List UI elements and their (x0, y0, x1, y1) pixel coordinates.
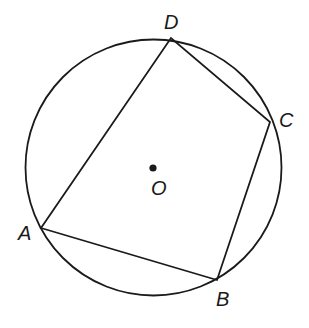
label-d: D (164, 11, 178, 33)
center-point-o (149, 164, 156, 171)
label-o: O (151, 177, 167, 199)
quadrilateral-abcd (41, 38, 270, 280)
label-c: C (279, 109, 294, 131)
label-b: B (216, 288, 229, 310)
label-a: A (17, 222, 31, 244)
inscribed-quadrilateral-diagram: O A B C D (0, 0, 309, 328)
